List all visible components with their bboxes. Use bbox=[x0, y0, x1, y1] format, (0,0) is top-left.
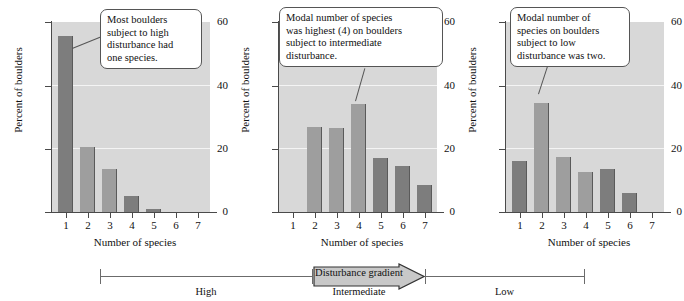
x-tick-label-7-1: 7 bbox=[188, 219, 208, 231]
x-tick-3-3 bbox=[564, 213, 565, 218]
y-tick-20-3 bbox=[499, 149, 505, 150]
x-tick-1-3 bbox=[520, 213, 521, 218]
y-tick-60-3 bbox=[499, 22, 505, 23]
x-tick-4-2 bbox=[359, 213, 360, 218]
x-axis-title-3: Number of species bbox=[494, 236, 684, 248]
y-axis-title-3: Percent of boulders bbox=[466, 20, 478, 160]
x-tick-label-1-2: 1 bbox=[283, 219, 303, 231]
x-tick-label-6-1: 6 bbox=[166, 219, 186, 231]
y-tick-40-3 bbox=[499, 86, 505, 87]
x-tick-1-2 bbox=[293, 213, 294, 218]
bar-2-6 bbox=[395, 166, 410, 212]
x-tick-7-2 bbox=[425, 213, 426, 218]
x-tick-7-3 bbox=[652, 213, 653, 218]
y-tick-label-0-1: 0 bbox=[184, 206, 228, 217]
x-tick-7-1 bbox=[198, 213, 199, 218]
x-tick-1-1 bbox=[66, 213, 67, 218]
disturbance-gradient-strip: Disturbance gradient High Intermediate L… bbox=[0, 258, 684, 301]
x-tick-label-6-2: 6 bbox=[393, 219, 413, 231]
bar-3-6 bbox=[622, 193, 637, 212]
y-tick-20-2 bbox=[272, 149, 278, 150]
bar-3-1 bbox=[512, 161, 527, 212]
bar-2-5 bbox=[373, 158, 388, 212]
bar-2-2 bbox=[307, 127, 322, 213]
gradient-right-cap bbox=[584, 269, 585, 284]
y-tick-label-20-3: 20 bbox=[638, 143, 682, 154]
x-tick-label-5-3: 5 bbox=[598, 219, 618, 231]
gradient-label-low: Low bbox=[425, 286, 584, 297]
x-axis-title-1: Number of species bbox=[40, 236, 230, 248]
y-tick-0-1 bbox=[45, 212, 51, 213]
chart-panel-high-disturbance: 0 20 40 60 Percent of boulders 1 2 3 4 5… bbox=[0, 0, 228, 258]
y-tick-label-60-3: 60 bbox=[638, 16, 682, 27]
chart-panel-low-disturbance: 0 20 40 60 Percent of boulders 1 2 3 4 5… bbox=[454, 0, 682, 258]
y-axis-3 bbox=[505, 21, 506, 213]
x-tick-5-2 bbox=[381, 213, 382, 218]
bar-1-3 bbox=[102, 169, 117, 212]
gradient-label-high: High bbox=[100, 286, 312, 297]
x-tick-5-3 bbox=[608, 213, 609, 218]
x-tick-3-2 bbox=[337, 213, 338, 218]
y-tick-40-1 bbox=[45, 86, 51, 87]
x-tick-label-7-3: 7 bbox=[642, 219, 662, 231]
gradient-left-line bbox=[100, 276, 312, 277]
y-tick-label-40-3: 40 bbox=[638, 80, 682, 91]
x-tick-2-1 bbox=[88, 213, 89, 218]
y-tick-label-0-2: 0 bbox=[411, 206, 455, 217]
x-axis-title-2: Number of species bbox=[267, 236, 457, 248]
y-tick-40-2 bbox=[272, 86, 278, 87]
y-axis-title-1: Percent of boulders bbox=[12, 20, 24, 160]
callout-intermediate-disturbance: Modal number of species was highest (4) … bbox=[279, 7, 443, 67]
figure-root: 0 20 40 60 Percent of boulders 1 2 3 4 5… bbox=[0, 0, 684, 301]
y-tick-0-2 bbox=[272, 212, 278, 213]
x-tick-4-1 bbox=[132, 213, 133, 218]
callout-low-disturbance: Modal number of species on boulders subj… bbox=[510, 7, 630, 67]
y-axis-title-2: Percent of boulders bbox=[239, 20, 251, 160]
bar-1-2 bbox=[80, 147, 95, 212]
x-tick-label-1-3: 1 bbox=[510, 219, 530, 231]
bar-2-4 bbox=[351, 104, 366, 212]
x-tick-label-4-2: 4 bbox=[349, 219, 369, 231]
bar-3-4 bbox=[578, 172, 593, 212]
y-tick-label-0-3: 0 bbox=[638, 206, 682, 217]
gradient-right-line bbox=[425, 276, 584, 277]
bar-3-5 bbox=[600, 169, 615, 212]
x-tick-label-2-1: 2 bbox=[78, 219, 98, 231]
x-tick-label-4-1: 4 bbox=[122, 219, 142, 231]
y-tick-60-2 bbox=[272, 22, 278, 23]
x-tick-6-1 bbox=[176, 213, 177, 218]
bar-3-2 bbox=[534, 103, 549, 212]
bar-2-3 bbox=[329, 128, 344, 212]
callout-high-disturbance: Most boulders subject to high disturbanc… bbox=[100, 9, 202, 69]
y-tick-60-1 bbox=[45, 22, 51, 23]
chart-panel-intermediate-disturbance: 0 20 40 60 Percent of boulders 1 2 3 4 5… bbox=[227, 0, 455, 258]
y-tick-label-20-1: 20 bbox=[184, 143, 228, 154]
x-tick-label-7-2: 7 bbox=[415, 219, 435, 231]
x-tick-2-3 bbox=[542, 213, 543, 218]
x-tick-label-3-1: 3 bbox=[100, 219, 120, 231]
x-tick-3-1 bbox=[110, 213, 111, 218]
x-tick-label-4-3: 4 bbox=[576, 219, 596, 231]
gradient-label-intermediate: Intermediate bbox=[313, 286, 405, 297]
bar-1-1 bbox=[58, 36, 73, 212]
x-tick-label-3-2: 3 bbox=[327, 219, 347, 231]
y-tick-0-3 bbox=[499, 212, 505, 213]
x-tick-label-1-1: 1 bbox=[56, 219, 76, 231]
x-tick-5-1 bbox=[154, 213, 155, 218]
x-tick-6-2 bbox=[403, 213, 404, 218]
x-tick-2-2 bbox=[315, 213, 316, 218]
y-tick-20-1 bbox=[45, 149, 51, 150]
x-tick-4-3 bbox=[586, 213, 587, 218]
x-tick-6-3 bbox=[630, 213, 631, 218]
y-axis-1 bbox=[51, 21, 52, 213]
x-tick-label-2-3: 2 bbox=[532, 219, 552, 231]
y-tick-label-20-2: 20 bbox=[411, 143, 455, 154]
y-tick-label-40-1: 40 bbox=[184, 80, 228, 91]
y-tick-label-40-2: 40 bbox=[411, 80, 455, 91]
x-tick-label-5-2: 5 bbox=[371, 219, 391, 231]
bar-3-3 bbox=[556, 157, 571, 212]
x-tick-label-2-2: 2 bbox=[305, 219, 325, 231]
bar-1-4 bbox=[124, 196, 139, 212]
gradient-arrow-label: Disturbance gradient bbox=[313, 267, 405, 278]
x-tick-label-6-3: 6 bbox=[620, 219, 640, 231]
